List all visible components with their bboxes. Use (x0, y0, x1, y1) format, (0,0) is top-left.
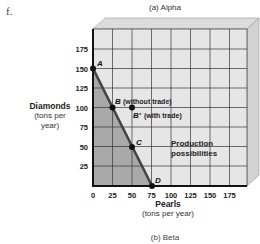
label-d: D (155, 176, 161, 185)
label-b: B (115, 97, 121, 106)
svg-text:125: 125 (75, 84, 88, 93)
x-axis-units: (tons per year) (118, 209, 218, 219)
svg-text:75: 75 (80, 123, 88, 132)
panel-b-title: (b) Beta (110, 233, 220, 242)
y-axis-units-line2: year) (20, 121, 80, 131)
label-a: A (96, 59, 103, 68)
label-b-note: (without trade) (123, 98, 172, 106)
label-c: C (136, 138, 142, 147)
svg-text:25: 25 (108, 191, 116, 200)
x-axis-title: Pearls (tons per year) (118, 199, 218, 219)
svg-text:150: 150 (75, 65, 88, 74)
x-axis-title-text: Pearls (118, 199, 218, 209)
y-axis-units-line1: (tons per (20, 111, 80, 121)
box-top-face (93, 18, 259, 29)
svg-text:175: 175 (223, 191, 236, 200)
svg-text:175: 175 (75, 45, 88, 54)
svg-text:25: 25 (80, 162, 88, 171)
point-c (129, 144, 135, 150)
y-axis-title: Diamonds (tons per year) (20, 101, 80, 131)
point-a (90, 66, 96, 72)
label-b-prime-note: (with trade) (144, 112, 182, 120)
svg-text:50: 50 (80, 143, 88, 152)
ppf-label-line2: possibilities (171, 149, 218, 158)
point-b-prime (129, 105, 135, 111)
ppf-label-line1: Production (171, 139, 213, 148)
box-right-face (247, 18, 259, 186)
y-axis-title-text: Diamonds (20, 101, 80, 111)
label-b-prime: B′ (133, 111, 142, 120)
svg-text:0: 0 (91, 191, 95, 200)
